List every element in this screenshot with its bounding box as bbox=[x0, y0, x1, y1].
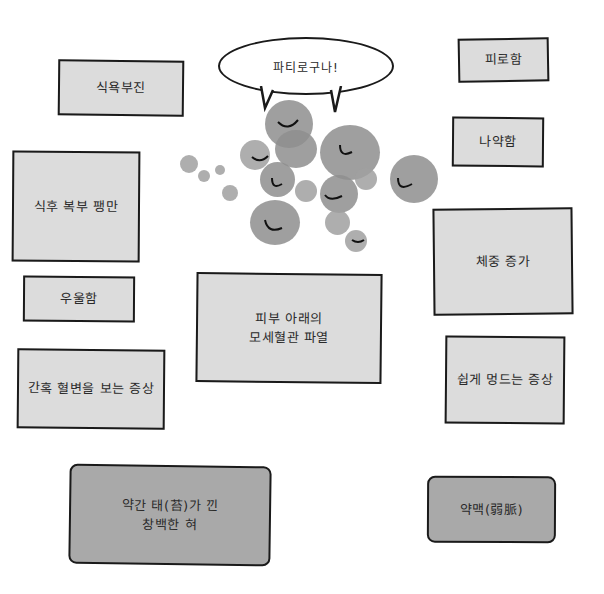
symptom-weakness: 나약함 bbox=[452, 117, 544, 168]
symptom-capillary-rupture: 피부 아래의 모세혈관 파열 bbox=[195, 272, 382, 384]
germ-blobs-illustration bbox=[170, 100, 460, 270]
symptom-easy-bruising: 쉽게 멍드는 증상 bbox=[445, 335, 566, 424]
symptom-pale-tongue: 약간 태(苔)가 낀 창백한 혀 bbox=[68, 464, 271, 567]
smiley-faces-icon bbox=[170, 100, 460, 270]
symptom-weight-gain: 체중 증가 bbox=[432, 207, 573, 315]
symptom-bloating: 식후 복부 팽만 bbox=[12, 151, 141, 263]
symptom-depression: 우울함 bbox=[23, 276, 135, 323]
symptom-appetite-loss: 식욕부진 bbox=[58, 59, 185, 116]
speech-bubble-text: 파티로구나! bbox=[273, 58, 339, 75]
symptom-fatigue: 피로함 bbox=[458, 37, 550, 83]
symptom-weak-pulse: 약맥(弱脈) bbox=[427, 476, 556, 544]
symptom-spotting: 간혹 혈변을 보는 증상 bbox=[17, 348, 166, 429]
